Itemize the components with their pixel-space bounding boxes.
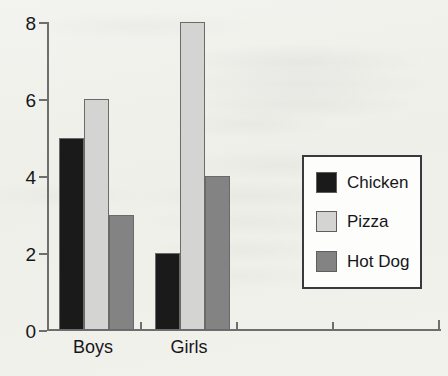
chart-legend: Chicken Pizza Hot Dog [302, 155, 422, 289]
legend-swatch-hotdog [316, 251, 337, 272]
y-axis-tick-8 [39, 22, 47, 24]
bar-girls-pizza [180, 22, 205, 330]
bar-girls-hotdog [205, 176, 230, 330]
legend-swatch-pizza [316, 211, 337, 232]
bar-boys-pizza [84, 99, 109, 330]
bar-boys-chicken [59, 138, 84, 331]
y-axis-tick-6 [39, 99, 47, 101]
bar-girls-chicken [155, 253, 180, 330]
y-axis-tick-2 [39, 253, 47, 255]
y-axis-label-4: 4 [10, 168, 36, 187]
y-axis-label-2: 2 [10, 245, 36, 264]
legend-item-pizza: Pizza [316, 205, 420, 239]
y-axis-label-6: 6 [10, 91, 36, 110]
bar-boys-hotdog [109, 215, 134, 331]
x-axis-tick-1 [140, 322, 142, 331]
y-axis-tick-0 [39, 330, 47, 332]
legend-item-hotdog: Hot Dog [316, 244, 420, 278]
legend-label-hotdog: Hot Dog [347, 253, 409, 270]
y-axis-label-0: 0 [10, 322, 36, 341]
x-axis-group-label-girls: Girls [171, 338, 208, 356]
x-axis-tick-2 [236, 322, 238, 331]
legend-swatch-chicken [316, 172, 337, 193]
x-axis-group-label-boys: Boys [73, 338, 113, 356]
y-axis-tick-4 [39, 176, 47, 178]
y-axis-line [47, 22, 49, 331]
x-axis-tick-4 [438, 320, 440, 331]
legend-label-chicken: Chicken [347, 174, 408, 191]
bar-chart-plot-area: 8 6 4 2 0 Boys Girls [0, 0, 448, 376]
y-axis-label-8: 8 [10, 14, 36, 33]
legend-label-pizza: Pizza [347, 213, 389, 230]
legend-item-chicken: Chicken [316, 166, 420, 200]
chart-page: 8 6 4 2 0 Boys Girls [0, 0, 448, 376]
x-axis-tick-3 [332, 322, 334, 331]
